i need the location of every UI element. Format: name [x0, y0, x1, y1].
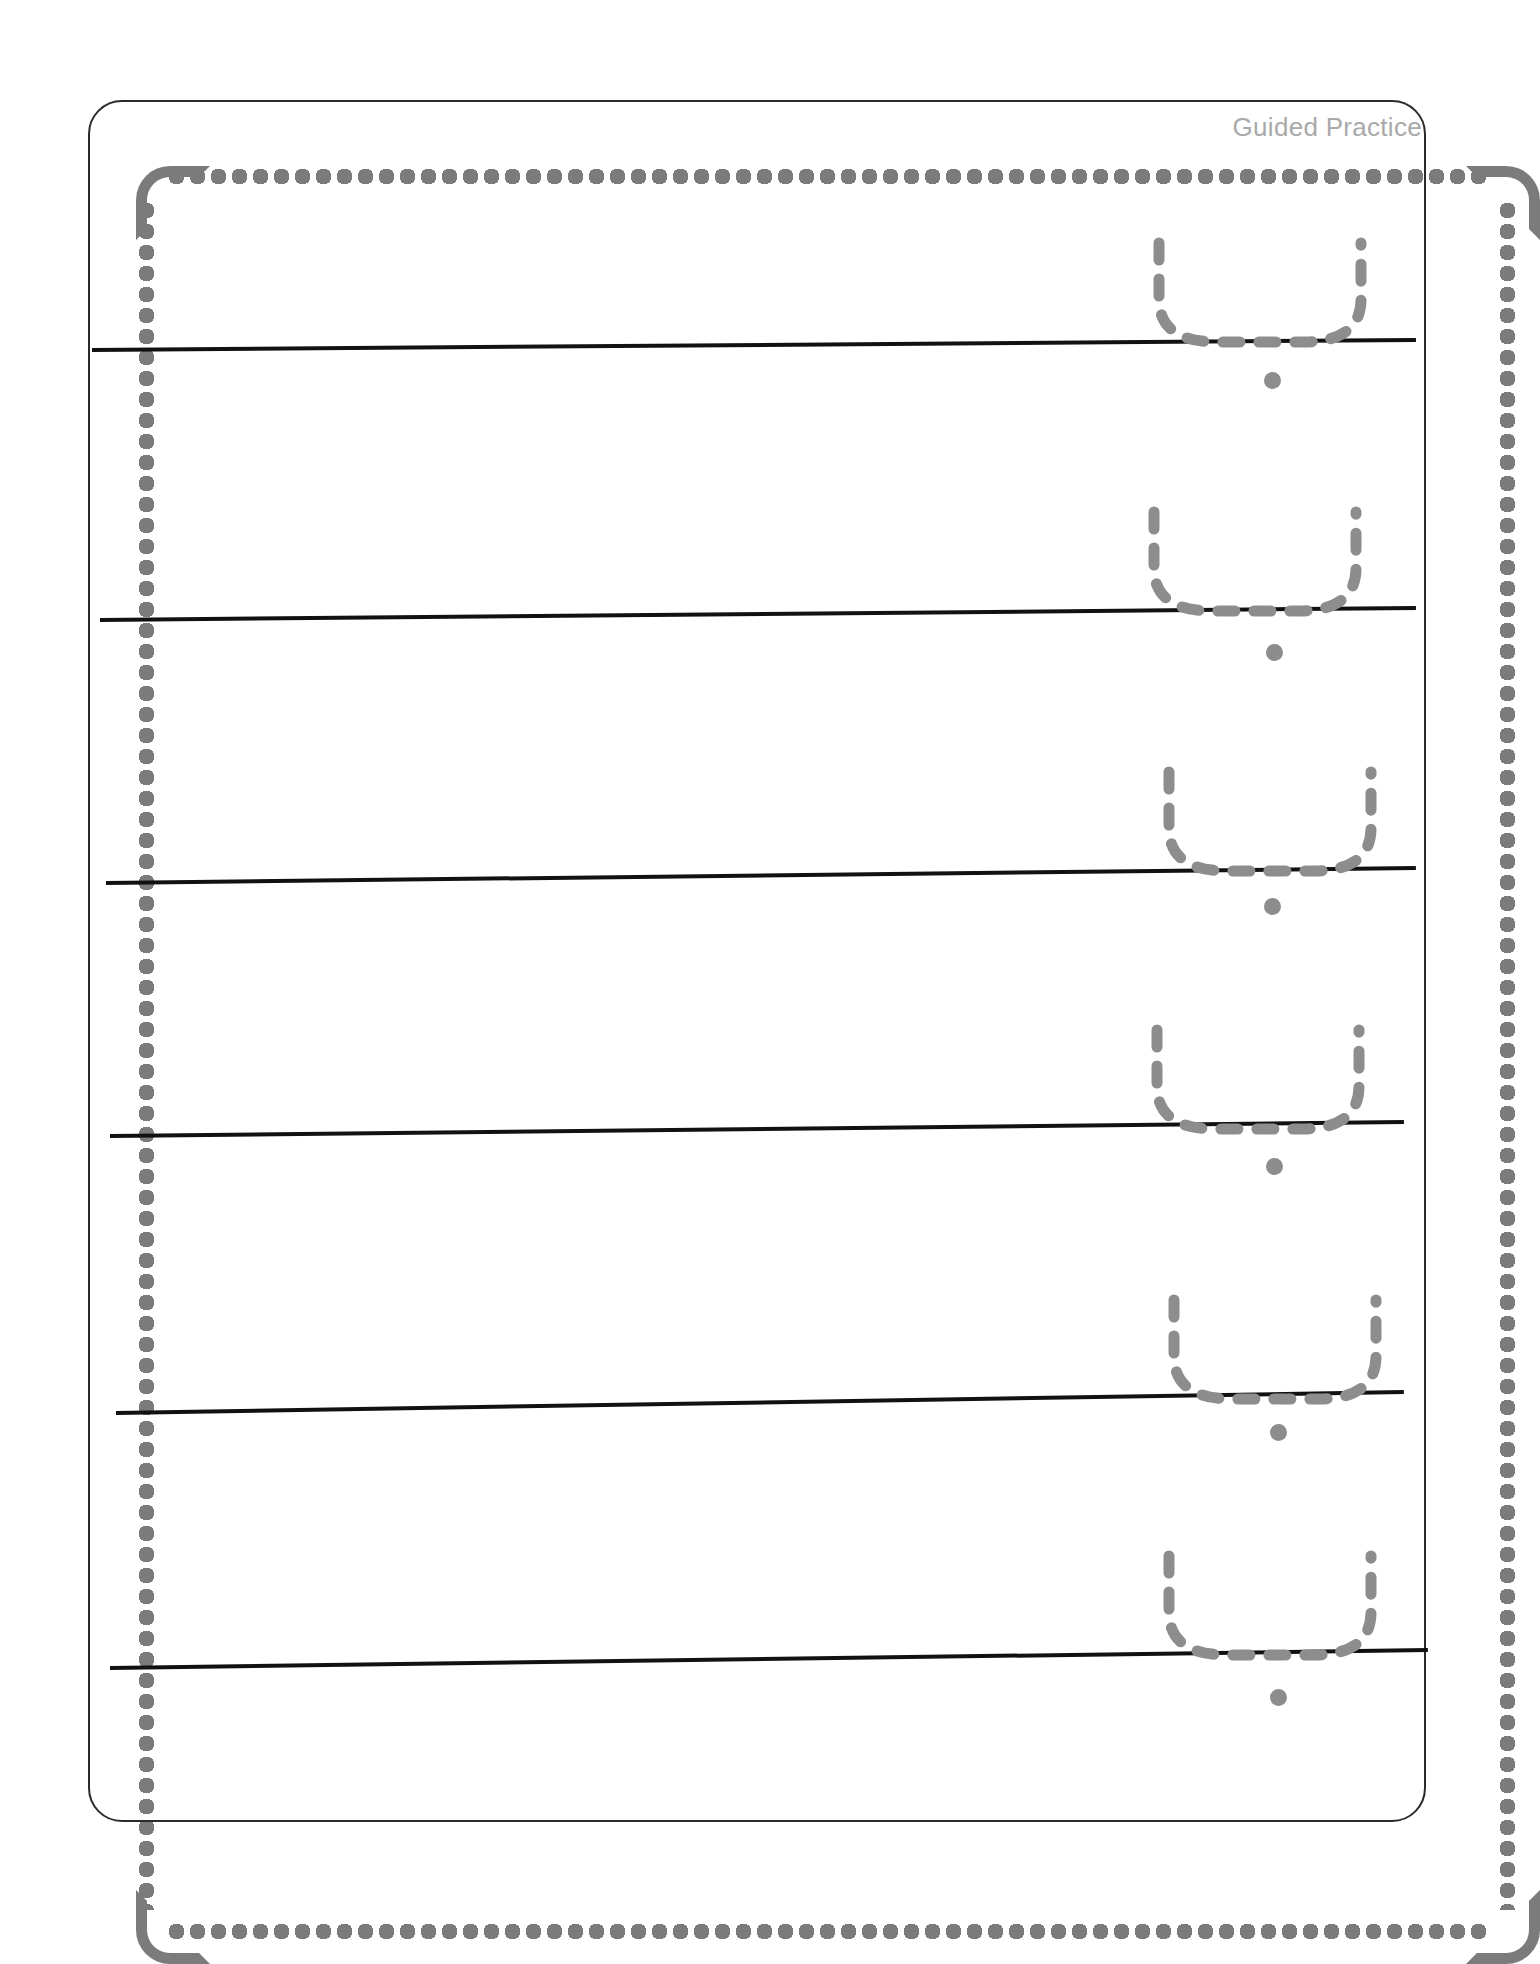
tracing-start-dot	[1264, 372, 1281, 389]
frame-corner-top-right	[1466, 166, 1540, 240]
tracing-start-dot	[1270, 1424, 1287, 1441]
page-title: Guided Practice	[1233, 112, 1422, 143]
u-bowl-dashed-trace	[1145, 237, 1375, 349]
frame-scallop-bottom	[166, 1921, 1488, 1942]
u-bowl-dashed-trace	[1160, 1294, 1390, 1406]
u-bowl-dashed-trace	[1155, 1550, 1385, 1662]
frame-scallop-right	[1497, 200, 1518, 1910]
frame-corner-bottom-right	[1466, 1890, 1540, 1964]
tracing-start-dot	[1266, 644, 1283, 661]
u-bowl-dashed-trace	[1143, 1024, 1373, 1136]
tracing-start-dot	[1270, 1689, 1287, 1706]
frame-corner-bottom-left	[136, 1890, 210, 1964]
u-bowl-dashed-trace	[1155, 766, 1385, 878]
tracing-start-dot	[1264, 898, 1281, 915]
u-bowl-dashed-trace	[1140, 506, 1370, 618]
tracing-start-dot	[1266, 1158, 1283, 1175]
